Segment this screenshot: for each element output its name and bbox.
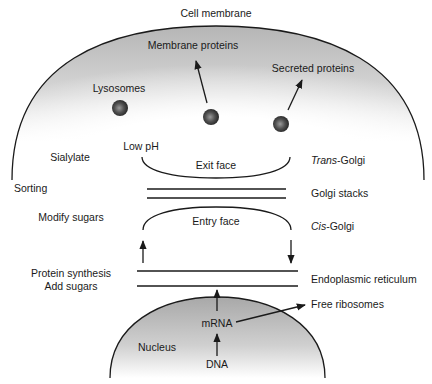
trans-golgi-suffix: -Golgi: [337, 154, 365, 166]
membrane-proteins-label: Membrane proteins: [148, 39, 238, 51]
cell-membrane-label: Cell membrane: [180, 7, 251, 19]
cis-golgi-suffix: -Golgi: [326, 220, 354, 232]
cis-golgi-prefix: Cis: [311, 220, 327, 232]
modify-sugars-label: Modify sugars: [38, 211, 103, 223]
trans-golgi-label: Trans-Golgi: [311, 154, 365, 166]
nucleus-label: Nucleus: [138, 341, 176, 353]
golgi-stacks-label: Golgi stacks: [311, 187, 368, 199]
exit-face-label: Exit face: [196, 159, 236, 171]
lysosome-vesicle-icon: [112, 100, 128, 116]
golgi-pathway-diagram: Cell membrane Membrane proteins Secreted…: [0, 0, 432, 384]
cis-golgi-label: Cis-Golgi: [311, 220, 354, 232]
free-ribosomes-label: Free ribosomes: [311, 298, 384, 310]
dna-label: DNA: [206, 358, 228, 370]
trans-golgi-prefix: Trans: [311, 154, 338, 166]
secreted-protein-vesicle-icon: [273, 116, 289, 132]
low-ph-label: Low pH: [123, 140, 159, 152]
sorting-label: Sorting: [14, 182, 47, 194]
secreted-proteins-label: Secreted proteins: [272, 62, 354, 74]
sialylate-label: Sialylate: [50, 151, 90, 163]
entry-face-label: Entry face: [192, 215, 239, 227]
membrane-protein-vesicle-icon: [203, 109, 219, 125]
add-sugars-label: Add sugars: [44, 280, 97, 292]
endoplasmic-reticulum-label: Endoplasmic reticulum: [311, 273, 417, 285]
mrna-label: mRNA: [202, 317, 233, 329]
lysosomes-label: Lysosomes: [93, 82, 146, 94]
protein-synthesis-label: Protein synthesis: [31, 267, 111, 279]
